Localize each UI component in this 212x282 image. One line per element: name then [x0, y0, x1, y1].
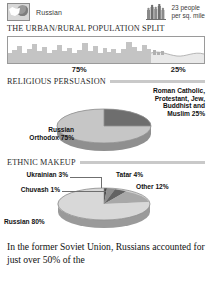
- hamlet-block-1: [153, 50, 156, 55]
- flag-globe-icon: [7, 3, 30, 21]
- density-line-1: 23 people: [171, 4, 205, 12]
- ethnic-label-tatar: Tatar 4%: [116, 171, 176, 179]
- urban-rural-title-text: THE URBAN/RURAL POPULATION SPLIT: [7, 24, 165, 33]
- section-title-urban-rural: THE URBAN/RURAL POPULATION SPLIT: [0, 24, 212, 33]
- footer-paragraph: In the former Soviet Union, Russians acc…: [0, 241, 212, 266]
- section-title-ethnic: ETHNIC MAKEUP: [0, 158, 212, 167]
- ethnic-label-chuvash: Chuvash 1%: [0, 186, 60, 194]
- city-skyline-shape: [8, 37, 151, 53]
- religion-label-orthodox: Russian Orthodox 75%: [2, 126, 74, 141]
- hamlet-block-2: [157, 52, 160, 55]
- ethnic-title-text: ETHNIC MAKEUP: [7, 158, 76, 167]
- city-density-icon: [146, 4, 166, 20]
- ukrainian-leader-line: [70, 177, 102, 178]
- ethnic-label-other: Other 12%: [136, 183, 206, 191]
- ukrainian-leader-drop: [101, 177, 102, 188]
- density-text: 23 people per sq. mile: [171, 4, 205, 20]
- urban-rural-percent-labels: 75% 25%: [0, 64, 212, 74]
- religion-title-text: RELIGIOUS PERSUASION: [7, 77, 106, 86]
- country-label: Russian: [36, 9, 62, 16]
- ethnic-label-russian: Russian 80%: [4, 218, 74, 226]
- rural-percent-label: 25%: [152, 65, 205, 74]
- population-density: 23 people per sq. mile: [146, 4, 205, 20]
- section-title-religion: RELIGIOUS PERSUASION: [0, 77, 212, 86]
- hamlet-block-3: [161, 51, 164, 55]
- page-header: Russian 23 people per sq. mile: [0, 0, 212, 22]
- country-identity: Russian: [7, 3, 62, 21]
- religion-title-rule: [110, 80, 205, 83]
- urban-rural-chart: [7, 36, 205, 64]
- density-line-2: per sq. mile: [171, 12, 205, 20]
- skyline-and-hills-graphic: [8, 37, 204, 63]
- religion-label-other: Roman Catholic, Protestant, Jew, Buddhis…: [119, 87, 205, 117]
- ethnic-chart-block: Ukrainian 3% Tatar 4% Other 12% Chuvash …: [0, 167, 212, 239]
- ethnic-label-ukrainian: Ukrainian 3%: [0, 171, 68, 179]
- ethnic-title-rule: [80, 161, 205, 164]
- chuvash-leader-line: [62, 191, 106, 192]
- religion-chart-block: Roman Catholic, Protestant, Jew, Buddhis…: [0, 86, 212, 158]
- urban-percent-label: 75%: [7, 65, 152, 74]
